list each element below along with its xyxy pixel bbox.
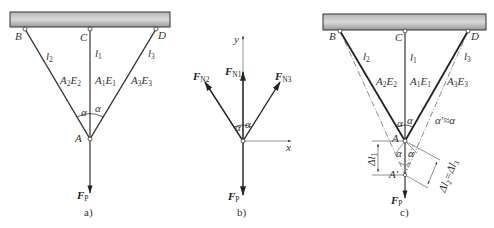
props-bar-1: A1E1 (409, 75, 431, 89)
props-bar-2: A2E2 (59, 74, 81, 88)
angle-alpha-left: α (235, 121, 241, 133)
three-bar-truss-figure: B C D A l2 l1 l3 A2E2 A1E1 A3E3 α α FP a… (0, 0, 494, 228)
force-fn3-arrow (243, 82, 280, 141)
panel-a: B C D A l2 l1 l3 A2E2 A1E1 A3E3 α α FP a… (10, 12, 170, 219)
props-bar-2: A2E2 (375, 75, 397, 89)
label-b: B (15, 30, 22, 42)
caption-c: c) (400, 206, 409, 219)
label-a-prime: A′ (388, 168, 399, 180)
props-bar-3: A3E3 (130, 74, 152, 88)
angle-alpha-right: α (407, 114, 413, 126)
ceiling-support (323, 14, 486, 30)
pin-b (23, 27, 27, 31)
label-b: B (329, 30, 336, 42)
joint-a (88, 137, 92, 141)
delta-l2-l3-label: Δl2=Δl3 (435, 158, 461, 196)
props-bar-3: A3E3 (446, 75, 468, 89)
length-l2: l2 (363, 50, 370, 64)
force-fn3-label: FN3 (274, 70, 292, 84)
pin-b (338, 29, 342, 33)
angle-alpha-right: α (245, 118, 251, 130)
label-a: A (74, 132, 82, 144)
force-fn2-label: FN2 (192, 70, 210, 84)
label-d: D (470, 30, 479, 42)
angle-relation: α′≈α (435, 114, 455, 126)
label-d: D (157, 29, 166, 41)
joint-a-prime (403, 173, 406, 176)
pin-c (403, 29, 407, 33)
label-c: C (395, 31, 403, 43)
length-l3: l3 (464, 50, 471, 64)
label-a: A (391, 132, 399, 144)
caption-b: b) (237, 206, 247, 219)
load-label: FP (227, 190, 240, 204)
ceiling-support (10, 12, 170, 27)
deformed-bar-3 (405, 31, 468, 175)
length-l1: l1 (410, 51, 417, 65)
angle-alpha-right: α (95, 102, 101, 114)
y-axis-label: y (233, 33, 239, 45)
force-fn1-label: FN1 (224, 65, 242, 79)
panel-c: B C D A A′ l2 l1 l3 A2E2 A1E1 A3E3 α α α… (323, 14, 486, 219)
x-axis-label: x (285, 141, 291, 153)
length-l1: l1 (95, 47, 102, 61)
load-label: FP (76, 189, 89, 203)
pin-c (88, 27, 92, 31)
label-c: C (80, 31, 88, 43)
angle-alpha-lower-right: α (408, 147, 414, 159)
pin-d (466, 29, 470, 33)
props-bar-1: A1E1 (94, 74, 116, 88)
joint-a (403, 139, 407, 143)
caption-a: a) (84, 206, 93, 219)
length-l3: l3 (148, 47, 155, 61)
delta-l1-label: Δl1 (365, 152, 379, 167)
angle-alpha-lower-left: α (396, 147, 402, 159)
origin-joint (241, 139, 245, 143)
dim-delta-l2-l3 (428, 162, 437, 184)
angle-alpha-left: α (81, 106, 87, 118)
dim-ext-aprime (405, 175, 428, 188)
panel-b: y x FN2 FN1 FN3 α α FP b) (192, 33, 292, 219)
angle-alpha-left: α (397, 117, 403, 129)
length-l2: l2 (46, 50, 53, 64)
